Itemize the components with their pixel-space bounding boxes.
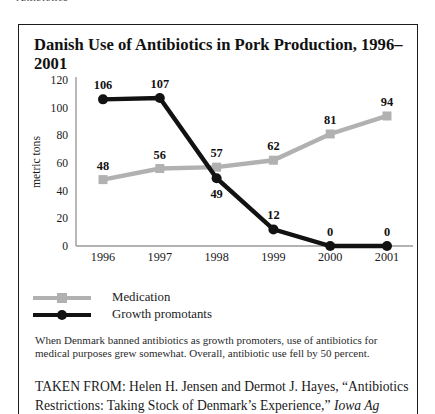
growth-promotants-line-sample bbox=[33, 309, 91, 321]
legend-item-growth-promotants: Growth promotants bbox=[33, 306, 212, 323]
medication-line-sample bbox=[33, 292, 91, 304]
running-header: Antibiotics bbox=[17, 0, 68, 3]
medication-square-marker-icon bbox=[57, 293, 67, 303]
legend-item-medication: Medication bbox=[33, 289, 212, 306]
figure-caption: When Denmark banned antibiotics as growt… bbox=[35, 334, 413, 360]
chart-legend: Medication Growth promotants bbox=[33, 289, 212, 323]
legend-label-growth-promotants: Growth promotants bbox=[112, 307, 212, 322]
figure-source: TAKEN FROM: Helen H. Jensen and Dermot J… bbox=[35, 377, 413, 414]
legend-label-medication: Medication bbox=[112, 290, 170, 305]
growth-promotants-circle-marker-icon bbox=[57, 310, 67, 320]
figure-title: Danish Use of Antibiotics in Pork Produc… bbox=[34, 35, 406, 73]
